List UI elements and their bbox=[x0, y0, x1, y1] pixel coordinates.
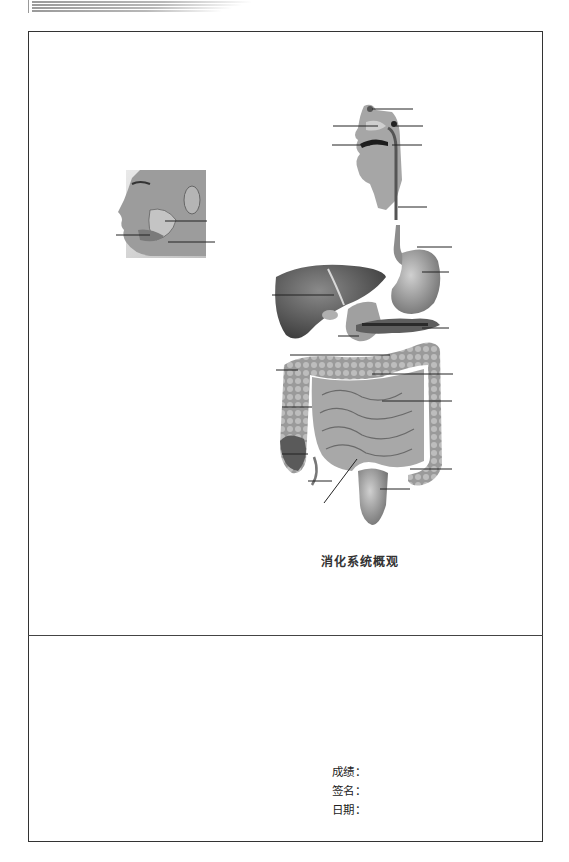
score-label: 成绩 bbox=[332, 763, 354, 782]
signature-separator: ： bbox=[355, 782, 366, 801]
figure-caption: 消化系统概观 bbox=[290, 552, 430, 569]
header-line bbox=[32, 10, 222, 12]
head-sagittal-section-illustration bbox=[330, 100, 430, 225]
header-line bbox=[32, 7, 232, 9]
face-salivary-gland-illustration bbox=[110, 170, 220, 260]
grading-block: 成绩 ： 签名 ： 日期 ： bbox=[332, 763, 366, 820]
header-line bbox=[32, 1, 252, 3]
date-row: 日期 ： bbox=[332, 801, 366, 820]
scanned-header-strip bbox=[28, 0, 258, 13]
date-separator: ： bbox=[355, 801, 366, 820]
signature-row: 签名 ： bbox=[332, 782, 366, 801]
digestive-organs-illustration bbox=[262, 225, 462, 530]
score-separator: ： bbox=[355, 763, 366, 782]
score-row: 成绩 ： bbox=[332, 763, 366, 782]
signature-label: 签名 bbox=[332, 782, 354, 801]
section-divider bbox=[28, 635, 543, 636]
header-edge bbox=[28, 0, 29, 13]
date-label: 日期 bbox=[332, 801, 354, 820]
header-line bbox=[32, 4, 242, 6]
